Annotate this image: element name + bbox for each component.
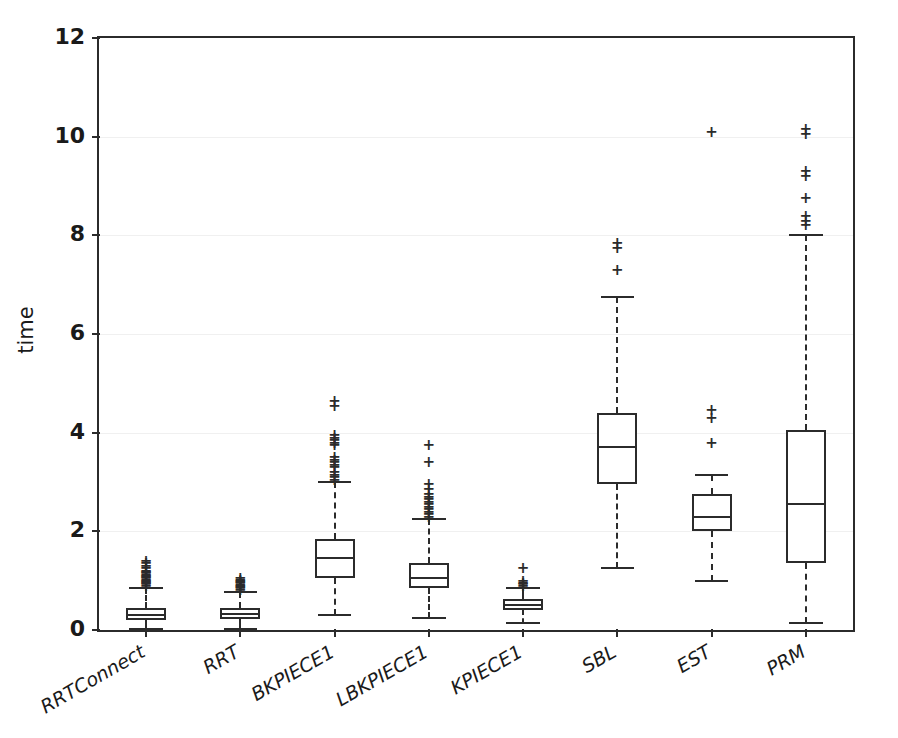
outlier-marker: +	[800, 164, 813, 179]
y-axis-title: time	[14, 306, 38, 353]
x-axis-tick-label: BKPIECE1	[247, 640, 338, 705]
x-axis-tick-label: LBKPIECE1	[332, 640, 432, 710]
outlier-marker: +	[800, 191, 813, 206]
whisker-upper	[805, 235, 807, 430]
plot-area: ++++++++++++++++++++++++++++++++++++++++…	[97, 36, 855, 632]
box-iqr	[786, 430, 826, 563]
x-axis-tick	[522, 629, 524, 637]
median-line	[786, 503, 826, 505]
x-axis-tick	[805, 629, 807, 637]
cap-upper	[789, 234, 823, 236]
y-axis-tick-label: 10	[54, 122, 85, 147]
x-axis-tick	[428, 629, 430, 637]
x-axis-tick-label: RRT	[199, 640, 243, 678]
x-axis-tick-label: KPIECE1	[447, 640, 526, 698]
x-axis-tick	[145, 629, 147, 637]
x-axis-tick	[711, 629, 713, 637]
y-axis-tick-label: 0	[70, 616, 85, 641]
y-axis-tick-label: 2	[70, 517, 85, 542]
outlier-marker: +	[800, 208, 813, 223]
y-axis-tick-label: 6	[70, 320, 85, 345]
y-axis-tick-label: 8	[70, 221, 85, 246]
whisker-lower	[805, 563, 807, 622]
outlier-marker: +	[800, 122, 813, 137]
x-axis-tick-label: PRM	[762, 640, 809, 680]
boxplot-prm[interactable]: ++++++++	[99, 38, 853, 630]
x-axis-tick	[334, 629, 336, 637]
x-axis-tick	[239, 629, 241, 637]
boxplot-figure: 024681012 time +++++++++++++++++++++++++…	[0, 0, 898, 738]
x-axis-tick-label: SBL	[578, 640, 620, 677]
y-axis-tick-label: 12	[54, 24, 85, 49]
cap-lower	[789, 622, 823, 624]
y-axis-labels: 024681012	[0, 0, 97, 738]
x-axis-tick	[616, 629, 618, 637]
y-axis-tick-label: 4	[70, 418, 85, 443]
x-axis-tick-label: EST	[672, 640, 714, 677]
